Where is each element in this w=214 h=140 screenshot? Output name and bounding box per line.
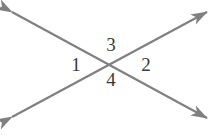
angle-label-4: 4	[106, 70, 116, 89]
angle-label-2: 2	[141, 55, 151, 74]
angle-label-3: 3	[106, 35, 116, 54]
angle-diagram-figure: 1 2 3 4	[0, 0, 214, 140]
angle-label-1: 1	[71, 55, 81, 74]
